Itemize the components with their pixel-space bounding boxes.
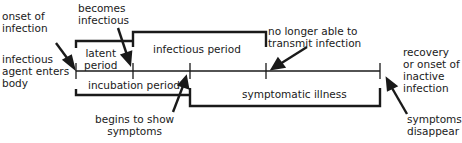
symptoms-disappear-label: symptoms disappear	[407, 113, 462, 137]
recovery-label: recovery or onset of inactive infection	[403, 46, 460, 94]
no-longer-transmit-label: no longer able to transmit infection	[268, 25, 361, 49]
begins-symptoms-label: begins to show symptoms	[95, 113, 174, 137]
latent-period-label: latent period	[84, 47, 117, 71]
infectious-period-label: infectious period	[153, 43, 241, 55]
arrow-no-longer-transmit	[280, 47, 307, 64]
symptomatic-illness-label: symptomatic illness	[242, 88, 347, 100]
agent-enters-body-label: infectious agent enters body	[2, 53, 69, 89]
arrow-becomes-infectious-head	[122, 52, 131, 64]
becomes-infectious-label: becomes infectious	[78, 2, 129, 26]
incubation-period-label: incubation period	[88, 79, 180, 91]
arrow-symptoms-begin-head	[179, 77, 188, 88]
onset-of-infection-label: onset of infection	[2, 10, 48, 34]
arrow-no-longer-transmit-head	[272, 59, 284, 69]
arrow-symptoms-disappear-head	[387, 79, 396, 90]
